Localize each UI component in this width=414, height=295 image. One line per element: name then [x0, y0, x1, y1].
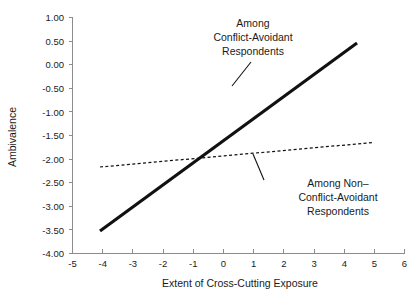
y-axis-title: Ambivalence	[6, 107, 18, 167]
y-tick-label: 1.00	[46, 12, 65, 23]
chart-canvas: 1.00 0.50 0.00 -0.50 -1.00 -1.50 -2.00 -…	[0, 0, 414, 295]
x-tick-label: -2	[159, 258, 167, 269]
annotation-non-conflict-avoidant-line2: Conflict-Avoidant	[298, 191, 377, 203]
x-tick-label: 2	[281, 258, 286, 269]
annotation-non-conflict-avoidant-line3: Respondents	[307, 205, 369, 217]
x-tick-label: 3	[311, 258, 316, 269]
y-tick-label: -3.50	[42, 225, 64, 236]
x-tick-label: -5	[68, 258, 76, 269]
annotation-conflict-avoidant-line3: Respondents	[222, 45, 284, 57]
y-tick-label: -1.00	[42, 107, 64, 118]
y-tick-label: -4.00	[42, 248, 64, 259]
x-tick-label: -3	[129, 258, 137, 269]
x-tick-label: 6	[402, 258, 407, 269]
y-tick-label: -3.00	[42, 201, 64, 212]
y-tick-label: -0.50	[42, 83, 64, 94]
annotation-conflict-avoidant-line1: Among	[236, 17, 269, 29]
x-tick-label: -1	[189, 258, 197, 269]
x-tick-label: 5	[372, 258, 377, 269]
x-tick-label: -4	[98, 258, 106, 269]
x-axis-title: Extent of Cross-Cutting Exposure	[162, 277, 318, 289]
x-tick-label: 0	[221, 258, 226, 269]
y-tick-label: -1.50	[42, 130, 64, 141]
annotation-non-conflict-avoidant-line1: Among Non–	[307, 177, 368, 189]
x-tick-label: 1	[251, 258, 256, 269]
annotation-conflict-avoidant-line2: Conflict-Avoidant	[213, 31, 292, 43]
y-tick-label: 0.50	[46, 36, 65, 47]
x-tick-label: 4	[342, 258, 347, 269]
y-tick-label: -2.50	[42, 177, 64, 188]
y-tick-label: -2.00	[42, 154, 64, 165]
chart-figure: 1.00 0.50 0.00 -0.50 -1.00 -1.50 -2.00 -…	[0, 0, 414, 295]
y-tick-label: 0.00	[46, 59, 65, 70]
